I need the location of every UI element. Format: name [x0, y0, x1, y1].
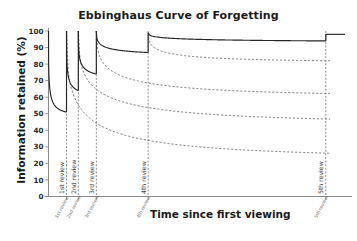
- svg-text:100: 100: [28, 27, 43, 36]
- svg-text:2nd review: 2nd review: [70, 160, 77, 194]
- chart-plot-area: 0102030405060708090100 1st review2nd rev…: [0, 0, 357, 241]
- chart-figure: Ebbinghaus Curve of Forgetting Informati…: [0, 0, 357, 241]
- svg-text:5th review: 5th review: [317, 161, 324, 194]
- svg-text:3rd review: 3rd review: [88, 161, 95, 194]
- retention-curve-solid: [49, 31, 346, 112]
- review-marker-labels: 1st review2nd review3rd review4th review…: [58, 160, 324, 194]
- svg-text:4th review: 4th review: [140, 161, 147, 194]
- chart-title: Ebbinghaus Curve of Forgetting: [0, 9, 357, 22]
- svg-text:5th review: 5th review: [313, 195, 329, 219]
- y-axis-label: Information retained (%): [15, 35, 27, 185]
- svg-text:60: 60: [33, 93, 43, 102]
- svg-text:40: 40: [33, 126, 43, 135]
- svg-text:50: 50: [33, 109, 43, 118]
- svg-text:10: 10: [33, 176, 43, 185]
- y-axis-ticks: 0102030405060708090100: [28, 27, 48, 202]
- svg-text:90: 90: [33, 43, 43, 52]
- svg-text:0: 0: [38, 192, 43, 201]
- decay-curves-dashed: [67, 31, 330, 153]
- x-axis-label: Time since first viewing: [150, 208, 291, 220]
- svg-text:20: 20: [33, 159, 43, 168]
- svg-text:70: 70: [33, 76, 43, 85]
- svg-text:80: 80: [33, 60, 43, 69]
- review-marker-lines: [67, 31, 326, 200]
- svg-text:3rd review: 3rd review: [84, 195, 100, 219]
- svg-text:30: 30: [33, 142, 43, 151]
- svg-text:1st review: 1st review: [58, 162, 65, 194]
